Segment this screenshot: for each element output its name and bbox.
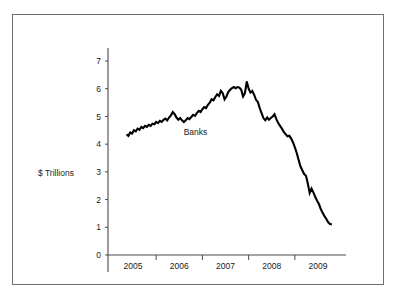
x-tick-label: 2007 xyxy=(216,261,235,271)
y-axis-title: $ Trillions xyxy=(38,168,74,178)
y-tick-label: 0 xyxy=(96,250,101,260)
x-tick-label: 2009 xyxy=(309,261,328,271)
x-tick-label: 2008 xyxy=(262,261,281,271)
y-tick-label: 4 xyxy=(96,139,101,149)
chart-plot-area: 01234567 20052006200720082009 $ Trillion… xyxy=(0,0,400,300)
data-series-group xyxy=(127,82,332,225)
series-label-banks: Banks xyxy=(184,127,208,137)
data-line-banks xyxy=(127,82,332,225)
x-tick-label: 2005 xyxy=(124,261,143,271)
y-tick-labels-group: 01234567 xyxy=(96,56,101,260)
x-tick-label: 2006 xyxy=(170,261,189,271)
y-tick-label: 1 xyxy=(96,222,101,232)
y-tick-label: 6 xyxy=(96,84,101,94)
tick-marks-group xyxy=(105,61,295,260)
y-tick-label: 7 xyxy=(96,56,101,66)
chart-figure: 01234567 20052006200720082009 $ Trillion… xyxy=(0,0,400,300)
y-tick-label: 3 xyxy=(96,167,101,177)
y-tick-label: 5 xyxy=(96,112,101,122)
axes-group xyxy=(108,48,346,272)
x-tick-labels-group: 20052006200720082009 xyxy=(124,261,328,271)
y-tick-label: 2 xyxy=(96,195,101,205)
